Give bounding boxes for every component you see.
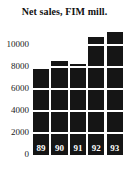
bar-label-89: 89 (33, 144, 49, 153)
bar-label-93: 93 (107, 144, 123, 153)
y-axis-tick-6000: 6000 (0, 84, 29, 93)
y-axis-tick-2000: 2000 (0, 128, 29, 137)
gridline-2000 (33, 132, 125, 134)
y-axis-tick-4000: 4000 (0, 106, 29, 115)
chart-figure: Net sales, FIM mill. 0200040006000800010… (0, 0, 129, 170)
bar-label-91: 91 (70, 144, 86, 153)
gridline-6000 (33, 88, 125, 90)
bar-93 (107, 32, 123, 155)
gridline-8000 (33, 66, 125, 68)
y-axis-tick-10000: 10000 (0, 40, 29, 49)
plot-area: 0200040006000800010000 8990919293 (0, 0, 129, 170)
bar-label-92: 92 (88, 144, 104, 153)
gridline-4000 (33, 110, 125, 112)
y-axis-tick-0: 0 (0, 150, 29, 159)
gridline-10000 (33, 44, 125, 46)
bar-label-90: 90 (51, 144, 67, 153)
bar-92 (88, 37, 104, 155)
bar-90 (51, 61, 67, 155)
y-axis-tick-8000: 8000 (0, 62, 29, 71)
